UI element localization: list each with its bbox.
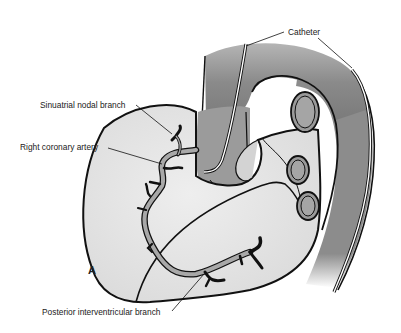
catheter-label: Catheter bbox=[288, 26, 320, 37]
heart-illustration bbox=[0, 0, 401, 333]
right-coronary-artery-label: Right coronary artery bbox=[20, 141, 98, 152]
sinuatrial-nodal-branch-label: Sinuatrial nodal branch bbox=[40, 99, 126, 110]
coronary-angiography-diagram: Catheter Sinuatrial nodal branch Right c… bbox=[0, 0, 401, 333]
panel-letter: A bbox=[88, 264, 96, 276]
posterior-interventricular-branch-label: Posterior interventricular branch bbox=[42, 306, 160, 317]
